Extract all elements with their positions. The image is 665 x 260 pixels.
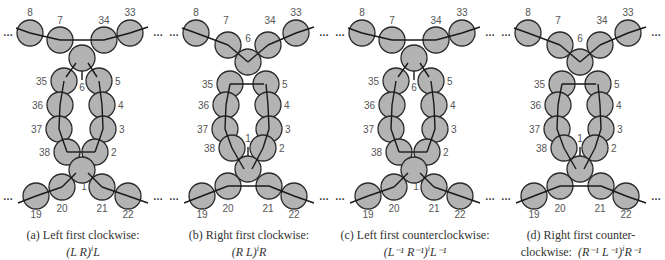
node-label: … <box>3 191 13 202</box>
bond-line <box>59 105 60 129</box>
caption-c: (c) Left first counterclockwise: (L⁻¹ R⁻… <box>332 228 498 259</box>
node-label: 33 <box>456 7 468 18</box>
node-label: 33 <box>622 7 634 18</box>
node-label: 6 <box>245 33 251 44</box>
node-label: 37 <box>529 124 541 135</box>
caption-title-a: (a) Left first clockwise: <box>0 228 166 242</box>
node-label: 38 <box>204 143 216 154</box>
chain-diagram-b: …………8734336353637385432119202122 <box>166 0 332 225</box>
caption-title-b: (b) Right first clockwise: <box>166 228 332 242</box>
node-label: 38 <box>39 147 51 158</box>
node-label: 5 <box>115 76 121 87</box>
chain-diagram-d: …………8734336353637385432119202122 <box>498 0 664 225</box>
node-label: 36 <box>32 100 44 111</box>
node-label: 2 <box>111 147 117 158</box>
node-label: 2 <box>443 147 449 158</box>
node-label: 35 <box>36 76 48 87</box>
node-label: 7 <box>223 15 229 26</box>
bond-line <box>600 105 601 129</box>
node-label: 2 <box>611 143 617 154</box>
node-label: 3 <box>285 124 291 135</box>
node-label: … <box>319 27 329 38</box>
node-label: … <box>169 191 179 202</box>
bond-line <box>434 105 435 129</box>
node-label: 37 <box>197 124 209 135</box>
node-label: 35 <box>534 79 546 90</box>
node-label: 22 <box>122 209 134 220</box>
node-label: 8 <box>27 7 33 18</box>
caption-formula-d: clockwise: (R⁻¹ L⁻¹)iR⁻¹ <box>498 242 664 259</box>
node-label: 37 <box>31 124 43 135</box>
node-label: 4 <box>450 100 456 111</box>
node-label: 38 <box>536 143 548 154</box>
bond-line <box>225 105 226 129</box>
node-label: 6 <box>577 33 583 44</box>
node-label: 35 <box>202 79 214 90</box>
node-label: … <box>169 27 179 38</box>
bond-line <box>391 105 392 129</box>
node-label: 8 <box>525 7 531 18</box>
node-label: … <box>3 27 13 38</box>
node-label: 5 <box>447 76 453 87</box>
node-label: 37 <box>363 124 375 135</box>
node-label: 20 <box>388 203 400 214</box>
node-label: 6 <box>411 82 417 93</box>
node-label: 20 <box>222 203 234 214</box>
node-label: 4 <box>118 100 124 111</box>
node-label: … <box>319 191 329 202</box>
node-label: 7 <box>389 15 395 26</box>
node-label: 21 <box>594 203 606 214</box>
node-label: 5 <box>614 79 620 90</box>
bond-line <box>268 105 269 129</box>
node-label: 1 <box>577 133 583 144</box>
node-label: 36 <box>198 100 210 111</box>
node-label: 5 <box>282 79 288 90</box>
node-label: 34 <box>430 15 442 26</box>
node-label: 36 <box>530 100 542 111</box>
node-label: … <box>485 191 495 202</box>
caption-formula-c: (L⁻¹ R⁻¹)iL⁻¹ <box>332 242 498 259</box>
node-label: 2 <box>279 143 285 154</box>
node-label: 19 <box>528 209 540 220</box>
node-label: 33 <box>124 7 136 18</box>
node-label: … <box>651 191 661 202</box>
node-label: 3 <box>617 124 623 135</box>
node-label: … <box>651 27 661 38</box>
node-label: … <box>485 27 495 38</box>
node-label: 38 <box>371 147 383 158</box>
chain-diagram-c: …………8734336353637385432119202122 <box>332 0 498 225</box>
node-label: 8 <box>359 7 365 18</box>
node-label: 6 <box>79 82 85 93</box>
panel-d: …………8734336353637385432119202122 (d) Rig… <box>498 0 664 260</box>
node-label: … <box>153 27 163 38</box>
node-label: 20 <box>56 203 68 214</box>
node-label: … <box>153 191 163 202</box>
node-label: 7 <box>57 15 63 26</box>
node-label: 36 <box>364 100 376 111</box>
node-label: 21 <box>262 203 274 214</box>
panel-a: …………8734336353637385432119202122 (a) Lef… <box>0 0 166 260</box>
node-label: 4 <box>284 100 290 111</box>
node-label: 33 <box>290 7 302 18</box>
chain-diagram-a: …………8734336353637385432119202122 <box>0 0 166 225</box>
node-label: 1 <box>81 181 87 192</box>
node-label: 20 <box>554 203 566 214</box>
node-label: 22 <box>454 209 466 220</box>
node-label: … <box>501 191 511 202</box>
node-label: 8 <box>193 7 199 18</box>
node-label: 1 <box>413 181 419 192</box>
node-label: 19 <box>196 209 208 220</box>
caption-d: (d) Right first counter- clockwise: (R⁻¹… <box>498 228 664 259</box>
node-label: 3 <box>119 124 125 135</box>
node-label: 21 <box>428 203 440 214</box>
node-label: 19 <box>30 209 42 220</box>
node-label: 35 <box>368 76 380 87</box>
caption-title-c: (c) Left first counterclockwise: <box>332 228 498 242</box>
node-label: 7 <box>555 15 561 26</box>
caption-formula-b: (R L)iR <box>166 242 332 259</box>
node-label: 4 <box>616 100 622 111</box>
node-label: 34 <box>264 15 276 26</box>
caption-b: (b) Right first clockwise: (R L)iR <box>166 228 332 259</box>
panel-b: …………8734336353637385432119202122 (b) Rig… <box>166 0 332 260</box>
node-label: … <box>335 27 345 38</box>
